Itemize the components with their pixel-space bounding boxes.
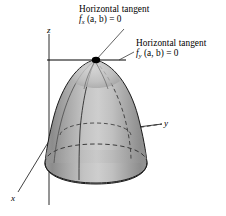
annotation-fy: Horizontal tangent fy (a, b) = 0: [136, 38, 206, 59]
annotation-fx-title: Horizontal tangent: [79, 4, 149, 14]
leader-line-fy: [119, 52, 134, 60]
annotation-fy-title: Horizontal tangent: [136, 38, 206, 48]
annotation-fy-rest: (a, b) = 0: [142, 48, 179, 58]
figure-canvas: [0, 0, 226, 216]
annotation-fx: Horizontal tangent fx (a, b) = 0: [79, 4, 149, 25]
leader-line-fx: [96, 29, 124, 60]
axis-label-y: y: [164, 118, 168, 128]
annotation-fx-equation: fx (a, b) = 0: [79, 14, 149, 25]
paraboloid-tangent-figure: Horizontal tangent fx (a, b) = 0 Horizon…: [0, 0, 226, 216]
axis-line-x: [18, 141, 49, 192]
maximum-point-marker: [92, 57, 100, 63]
annotation-fy-equation: fy (a, b) = 0: [136, 48, 206, 59]
axis-label-x: x: [11, 193, 15, 203]
annotation-fx-rest: (a, b) = 0: [85, 14, 122, 24]
axis-label-z: z: [47, 25, 51, 35]
axis-line-y-visible: [138, 124, 162, 127]
apex-cap-shading: [71, 60, 120, 88]
